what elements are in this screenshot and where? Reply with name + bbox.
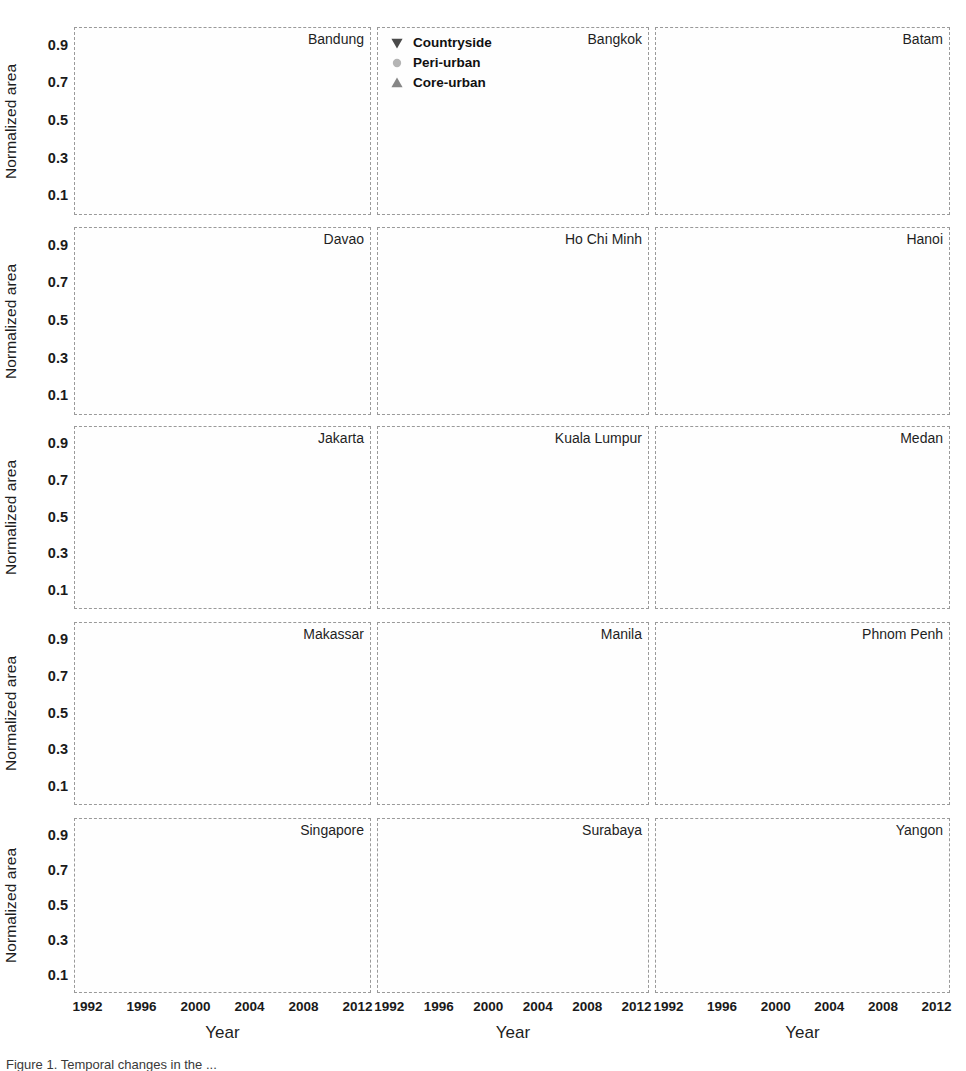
y-tick-label: 0.1: [24, 967, 68, 983]
x-tick-label: 1992: [62, 999, 114, 1014]
legend-item: Peri-urban: [387, 54, 492, 71]
x-axis-title: Year: [377, 1023, 649, 1043]
circle-icon: [387, 56, 407, 70]
y-tick-label: 0.9: [24, 827, 68, 843]
x-tick-label: 2012: [911, 999, 963, 1014]
panel-jakarta: Jakarta: [74, 426, 371, 609]
panel-hanoi: Hanoi: [655, 227, 950, 415]
legend-item-label: Peri-urban: [413, 55, 481, 70]
panel-title: Kuala Lumpur: [555, 430, 642, 446]
y-tick-label: 0.9: [24, 37, 68, 53]
x-tick-label: 2000: [170, 999, 222, 1014]
panel-title: Ho Chi Minh: [565, 231, 642, 247]
y-tick-label: 0.9: [24, 631, 68, 647]
y-tick-label: 0.7: [24, 274, 68, 290]
panel-frame: [655, 622, 950, 805]
panel-title: Manila: [601, 626, 642, 642]
legend-item: Countryside: [387, 34, 492, 51]
x-tick-label: 2008: [561, 999, 613, 1014]
x-tick-label: 2008: [278, 999, 330, 1014]
panel-frame: [74, 622, 371, 805]
panel-davao: Davao: [74, 227, 371, 415]
y-tick-label: 0.7: [24, 472, 68, 488]
y-tick-label: 0.5: [24, 509, 68, 525]
panel-title: Phnom Penh: [862, 626, 943, 642]
panel-bandung: Bandung: [74, 27, 371, 215]
y-tick-label: 0.5: [24, 897, 68, 913]
y-tick-label: 0.5: [24, 312, 68, 328]
x-tick-label: 1996: [116, 999, 168, 1014]
panel-frame: [655, 227, 950, 415]
x-tick-label: 2004: [803, 999, 855, 1014]
y-tick-label: 0.7: [24, 668, 68, 684]
x-tick-label: 1996: [696, 999, 748, 1014]
legend: Countryside Peri-urban Core-urban: [387, 34, 492, 94]
x-tick-label: 2008: [857, 999, 909, 1014]
panel-title: Hanoi: [906, 231, 943, 247]
panel-title: Batam: [903, 31, 943, 47]
panel-makassar: Makassar: [74, 622, 371, 805]
y-tick-label: 0.3: [24, 350, 68, 366]
y-tick-label: 0.3: [24, 150, 68, 166]
y-tick-label: 0.3: [24, 545, 68, 561]
panel-frame: [74, 818, 371, 993]
y-tick-label: 0.7: [24, 862, 68, 878]
figure-caption: Figure 1. Temporal changes in the ...: [6, 1057, 217, 1071]
panel-frame: [655, 27, 950, 215]
panel-frame: [377, 227, 649, 415]
panel-title: Surabaya: [582, 822, 642, 838]
panel-frame: [377, 818, 649, 993]
legend-item-label: Core-urban: [413, 75, 486, 90]
y-tick-label: 0.1: [24, 187, 68, 203]
x-tick-label: 1992: [363, 999, 415, 1014]
up-triangle-icon: [387, 76, 407, 90]
panel-title: Bandung: [308, 31, 364, 47]
legend-item-label: Countryside: [413, 35, 492, 50]
panel-frame: [74, 227, 371, 415]
x-tick-label: 1996: [413, 999, 465, 1014]
panel-yangon: Yangon: [655, 818, 950, 993]
panel-title: Makassar: [303, 626, 364, 642]
panel-surabaya: Surabaya: [377, 818, 649, 993]
y-tick-label: 0.3: [24, 932, 68, 948]
x-tick-label: 2004: [512, 999, 564, 1014]
y-tick-label: 0.1: [24, 582, 68, 598]
y-axis-title: Normalized area: [2, 227, 20, 415]
y-tick-label: 0.3: [24, 741, 68, 757]
x-axis-title: Year: [74, 1023, 371, 1043]
panel-batam: Batam: [655, 27, 950, 215]
y-axis-title: Normalized area: [2, 27, 20, 215]
panel-phnom-penh: Phnom Penh: [655, 622, 950, 805]
y-tick-label: 0.5: [24, 112, 68, 128]
x-tick-label: 1992: [642, 999, 694, 1014]
y-tick-label: 0.5: [24, 705, 68, 721]
panel-frame: [74, 426, 371, 609]
x-axis-title: Year: [655, 1023, 950, 1043]
y-tick-label: 0.1: [24, 778, 68, 794]
panel-title: Yangon: [896, 822, 943, 838]
down-triangle-icon: [387, 36, 407, 50]
y-axis-title: Normalized area: [2, 622, 20, 805]
legend-item: Core-urban: [387, 74, 492, 91]
x-tick-label: 2000: [750, 999, 802, 1014]
panel-frame: [377, 426, 649, 609]
y-tick-label: 0.9: [24, 435, 68, 451]
panel-title: Singapore: [300, 822, 364, 838]
panel-title: Medan: [900, 430, 943, 446]
panel-frame: [74, 27, 371, 215]
panel-frame: [655, 818, 950, 993]
y-tick-label: 0.7: [24, 74, 68, 90]
x-tick-label: 2000: [462, 999, 514, 1014]
panel-medan: Medan: [655, 426, 950, 609]
figure-root: BandungBangkokBatamDavaoHo Chi MinhHanoi…: [0, 0, 966, 1071]
y-tick-label: 0.1: [24, 387, 68, 403]
x-tick-label: 2004: [224, 999, 276, 1014]
panel-title: Davao: [324, 231, 364, 247]
panel-title: Jakarta: [318, 430, 364, 446]
panel-title: Bangkok: [588, 31, 642, 47]
panel-manila: Manila: [377, 622, 649, 805]
panel-kuala-lumpur: Kuala Lumpur: [377, 426, 649, 609]
panel-frame: [655, 426, 950, 609]
y-axis-title: Normalized area: [2, 818, 20, 993]
panel-singapore: Singapore: [74, 818, 371, 993]
